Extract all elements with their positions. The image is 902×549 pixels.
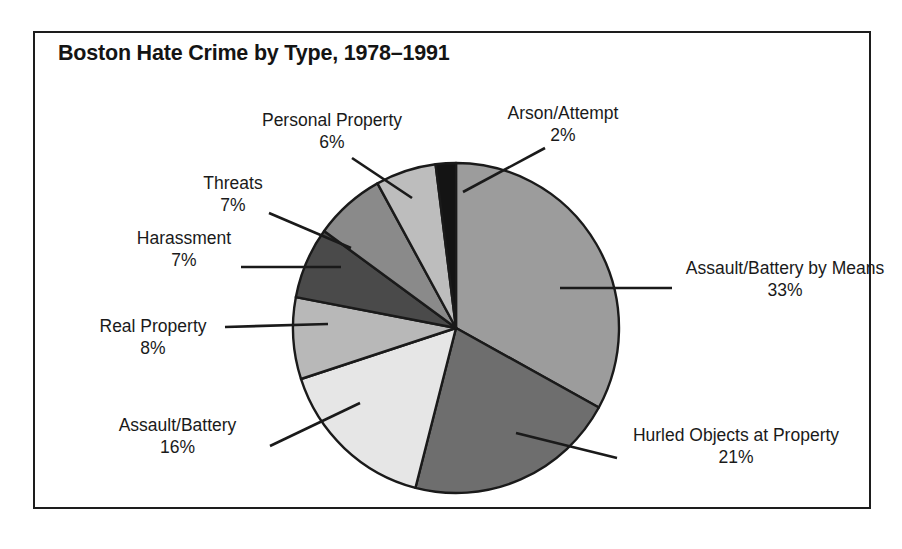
callout-personal-property-name: Personal Property — [262, 110, 402, 130]
callout-threats: Threats 7% — [178, 173, 288, 217]
callout-real-property: Real Property 8% — [88, 316, 218, 360]
callout-harassment-name: Harassment — [137, 228, 231, 248]
callout-hurled-objects: Hurled Objects at Property 21% — [620, 425, 852, 469]
callout-arson-attempt-name: Arson/Attempt — [508, 103, 619, 123]
callout-hurled-objects-name: Hurled Objects at Property — [633, 425, 839, 445]
callout-threats-name: Threats — [203, 173, 262, 193]
callout-personal-property: Personal Property 6% — [232, 110, 432, 154]
callout-harassment-pct: 7% — [130, 250, 238, 272]
callout-harassment: Harassment 7% — [130, 228, 238, 272]
callout-real-property-pct: 8% — [88, 338, 218, 360]
callout-threats-pct: 7% — [178, 195, 288, 217]
pie-slice-group — [293, 163, 619, 493]
callout-assault-battery: Assault/Battery 16% — [95, 415, 260, 459]
callout-assault-battery-pct: 16% — [95, 437, 260, 459]
callout-assault-battery-by-means: Assault/Battery by Means 33% — [676, 258, 894, 302]
callout-assault-battery-by-means-pct: 33% — [676, 280, 894, 302]
callout-real-property-name: Real Property — [100, 316, 207, 336]
callout-assault-battery-by-means-name: Assault/Battery by Means — [686, 258, 884, 278]
callout-hurled-objects-pct: 21% — [620, 447, 852, 469]
callout-arson-attempt-pct: 2% — [478, 125, 648, 147]
callout-personal-property-pct: 6% — [232, 132, 432, 154]
callout-arson-attempt: Arson/Attempt 2% — [478, 103, 648, 147]
pie-chart-figure: Boston Hate Crime by Type, 1978–1991 Per… — [0, 0, 902, 549]
callout-assault-battery-name: Assault/Battery — [119, 415, 237, 435]
